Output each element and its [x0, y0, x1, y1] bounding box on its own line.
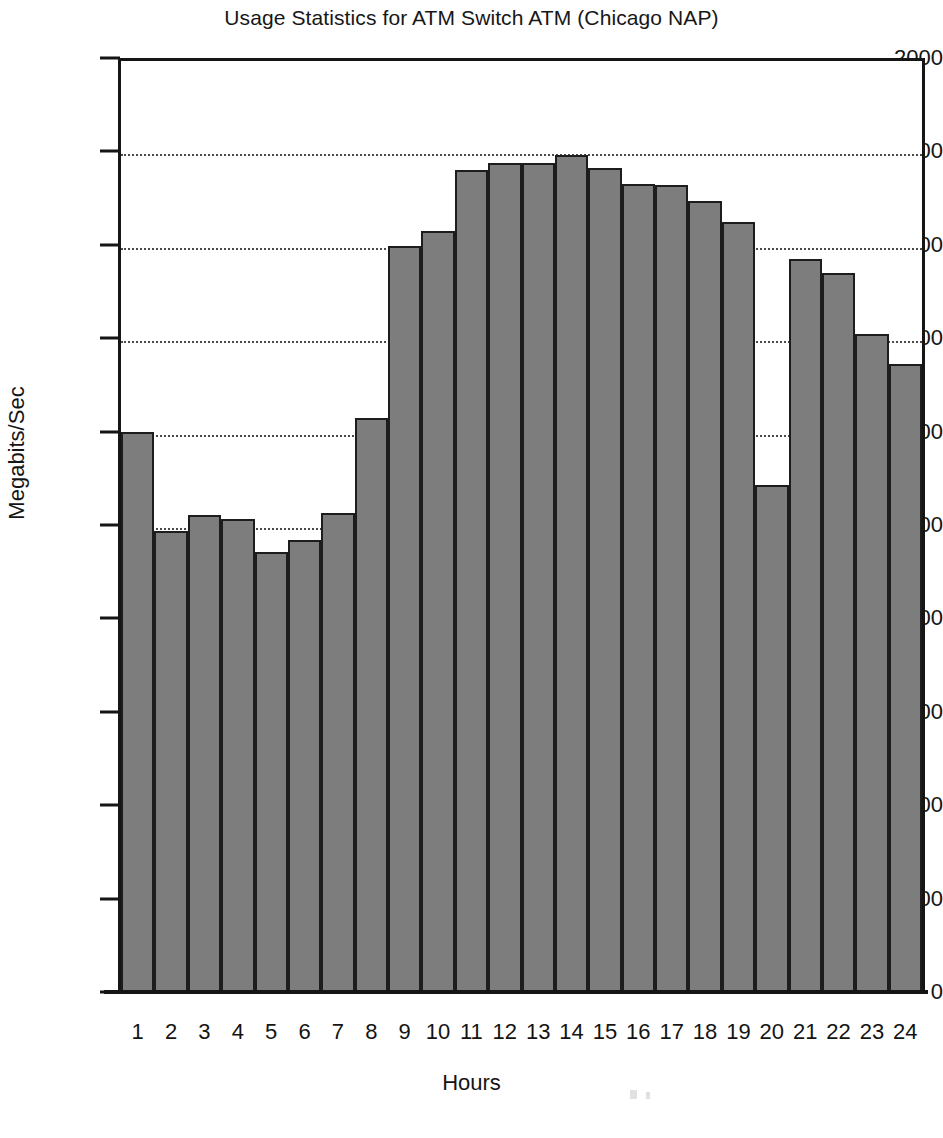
x-tick-label: 23 — [860, 1019, 884, 1045]
x-tick-label: 22 — [826, 1019, 850, 1045]
bar — [388, 246, 421, 992]
x-tick-label: 14 — [559, 1019, 583, 1045]
x-tick-label: 11 — [460, 1019, 483, 1045]
plot-area — [118, 58, 925, 992]
y-tick-mark — [100, 430, 120, 433]
x-axis-line — [104, 990, 928, 994]
x-tick-label: 2 — [165, 1019, 177, 1045]
y-axis-title: Megabits/Sec — [4, 193, 30, 713]
gridline — [121, 154, 922, 156]
bar — [688, 201, 721, 992]
bar — [421, 231, 454, 992]
x-tick-label: 3 — [198, 1019, 210, 1045]
x-tick-label: 21 — [793, 1019, 817, 1045]
bar — [722, 222, 755, 992]
x-tick-label: 15 — [593, 1019, 617, 1045]
bar — [889, 364, 922, 992]
y-tick-mark — [100, 337, 120, 340]
x-tick-label: 6 — [298, 1019, 310, 1045]
x-tick-label: 10 — [426, 1019, 450, 1045]
y-tick-mark — [100, 897, 120, 900]
x-axis-title: Hours — [0, 1070, 943, 1096]
y-tick-mark — [100, 710, 120, 713]
x-tick-label: 1 — [132, 1019, 144, 1045]
bar — [655, 185, 688, 992]
x-tick-label: 8 — [365, 1019, 377, 1045]
y-tick-mark — [100, 150, 120, 153]
x-tick-label: 12 — [493, 1019, 517, 1045]
y-tick-mark — [100, 243, 120, 246]
x-tick-label: 16 — [626, 1019, 650, 1045]
y-tick-mark — [100, 804, 120, 807]
scan-speck — [646, 1092, 650, 1099]
bar — [154, 531, 187, 992]
bar — [555, 155, 588, 992]
y-tick-mark — [100, 524, 120, 527]
bar — [488, 163, 521, 992]
bar — [321, 513, 354, 992]
bar — [121, 432, 154, 992]
bar — [255, 552, 288, 992]
scan-speck — [630, 1090, 637, 1099]
bar — [522, 163, 555, 992]
bar — [622, 184, 655, 992]
x-tick-label: 18 — [693, 1019, 717, 1045]
chart-title: Usage Statistics for ATM Switch ATM (Chi… — [0, 6, 943, 30]
bar — [455, 170, 488, 992]
chart-figure: Usage Statistics for ATM Switch ATM (Chi… — [0, 0, 943, 1138]
x-tick-label: 7 — [332, 1019, 344, 1045]
y-tick-mark — [100, 57, 120, 60]
bar — [221, 519, 254, 992]
bar — [755, 485, 788, 992]
bar — [789, 259, 822, 992]
bar — [855, 334, 888, 992]
bar — [188, 515, 221, 992]
x-tick-label: 19 — [726, 1019, 750, 1045]
x-tick-label: 4 — [232, 1019, 244, 1045]
x-tick-label: 17 — [659, 1019, 683, 1045]
bar — [588, 168, 621, 992]
x-tick-label: 20 — [760, 1019, 784, 1045]
y-tick-mark — [100, 617, 120, 620]
x-tick-label: 9 — [399, 1019, 411, 1045]
x-tick-label: 13 — [526, 1019, 550, 1045]
bar — [355, 418, 388, 992]
x-tick-label: 24 — [893, 1019, 917, 1045]
bar — [822, 273, 855, 992]
x-tick-label: 5 — [265, 1019, 277, 1045]
bar — [288, 540, 321, 992]
